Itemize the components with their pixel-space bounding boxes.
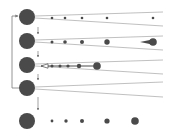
dot-rows — [41, 17, 157, 125]
dot — [80, 40, 84, 44]
left-arrowhead-icon — [41, 64, 48, 68]
fan-line-top — [35, 36, 163, 40]
dot — [64, 17, 67, 20]
main-node-n4 — [19, 80, 35, 96]
fan-lines — [35, 12, 163, 97]
feedback-loop-arrow — [12, 16, 19, 88]
dot — [93, 62, 101, 70]
fan-line-bottom — [35, 89, 163, 97]
dot — [51, 65, 54, 68]
main-node-n1 — [19, 9, 35, 25]
dot — [152, 17, 155, 20]
fan-line-top — [35, 12, 163, 16]
dot — [77, 64, 81, 68]
main-node-n3 — [19, 57, 35, 73]
dot — [131, 117, 139, 125]
dot — [51, 120, 54, 123]
dot — [80, 119, 84, 123]
dot — [106, 17, 109, 20]
main-node-n2 — [19, 33, 35, 49]
dot — [51, 17, 54, 20]
dot — [104, 39, 109, 44]
dot — [63, 40, 67, 44]
main-node-n5 — [19, 113, 35, 129]
feedback-arrow-path — [12, 16, 19, 88]
fan-line-top — [35, 82, 163, 87]
dot — [104, 118, 109, 123]
fan-line-bottom — [35, 18, 163, 26]
main-nodes — [19, 9, 35, 129]
dot — [66, 64, 69, 67]
dot — [64, 119, 67, 122]
fan-line-bottom — [35, 42, 163, 50]
diagram-canvas — [0, 0, 178, 135]
dot — [81, 17, 84, 20]
dot — [51, 41, 54, 44]
dot — [59, 65, 62, 68]
dot — [149, 38, 157, 46]
